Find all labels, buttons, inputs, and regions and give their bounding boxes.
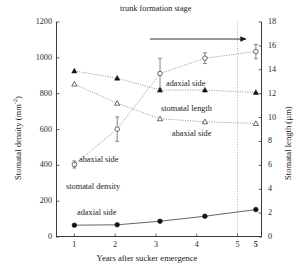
y-axis-left-tick-label: 200 xyxy=(26,197,52,205)
y-axis-left-tick-label: 600 xyxy=(26,126,52,134)
data-point-open-triangle xyxy=(253,121,258,126)
trunk-formation-stage-label: trunk formation stage xyxy=(120,4,191,13)
chart-canvas xyxy=(0,0,294,270)
y-axis-left-tick-label: 1000 xyxy=(26,54,52,62)
data-point-filled-circle xyxy=(158,219,163,224)
x-axis-tick-label: 5 xyxy=(228,241,248,249)
data-point-open-triangle xyxy=(202,119,207,124)
x-axis-tick-label: 1 xyxy=(64,241,84,249)
x-axis-tick-label: 5 xyxy=(246,241,266,249)
y-axis-left-title: Stomatal density (mm-2) xyxy=(12,96,23,180)
data-point-filled-circle xyxy=(254,207,259,212)
data-point-filled-triangle xyxy=(253,90,258,95)
y-axis-right-tick-label: 0 xyxy=(268,233,290,241)
stomatal-length-group-label: stomatal length xyxy=(161,104,212,113)
data-point-filled-triangle xyxy=(202,87,207,92)
chart-render-group xyxy=(56,22,262,237)
data-point-open-circle xyxy=(254,49,259,54)
data-point-open-circle xyxy=(158,71,163,76)
y-axis-right-tick-label: 2 xyxy=(268,209,290,217)
x-axis-title: Years after sucker emergence xyxy=(0,253,294,263)
abaxial-side-density-label: abaxial side xyxy=(79,155,118,164)
y-axis-right-tick-label: 12 xyxy=(268,90,290,98)
x-axis-tick-label: 2 xyxy=(105,241,125,249)
y-axis-right-title: Stomatal length (µm) xyxy=(283,106,293,180)
y-axis-left-tick-label: 800 xyxy=(26,90,52,98)
x-axis-tick-label: 4 xyxy=(187,241,207,249)
abaxial-side-length-label: abaxial side xyxy=(172,129,211,138)
data-point-filled-triangle xyxy=(72,68,77,73)
data-point-open-circle xyxy=(203,56,208,61)
data-point-open-triangle xyxy=(72,81,77,86)
data-point-open-circle xyxy=(72,162,77,167)
stomatal-density-group-label: stomatal density xyxy=(66,182,120,191)
data-point-open-circle xyxy=(115,127,120,132)
y-axis-right-tick-label: 14 xyxy=(268,66,290,74)
y-axis-left-tick-label: 0 xyxy=(26,233,52,241)
data-point-open-triangle xyxy=(115,101,120,106)
chart-figure: 020040060080010001200 024681012141618 12… xyxy=(0,0,294,270)
data-point-filled-circle xyxy=(72,223,77,228)
x-axis-tick-label: 3 xyxy=(146,241,166,249)
y-axis-right-tick-label: 18 xyxy=(268,18,290,26)
data-point-filled-circle xyxy=(115,223,120,228)
adaxial-side-density-label: adaxial side xyxy=(77,208,116,217)
y-axis-right-tick-label: 4 xyxy=(268,185,290,193)
y-axis-left-tick-label: 1200 xyxy=(26,18,52,26)
data-point-open-triangle xyxy=(157,116,162,121)
y-axis-left-tick-label: 400 xyxy=(26,161,52,169)
data-point-filled-circle xyxy=(203,214,208,219)
adaxial-side-length-label: adaxial side xyxy=(166,79,205,88)
y-axis-right-tick-label: 16 xyxy=(268,42,290,50)
